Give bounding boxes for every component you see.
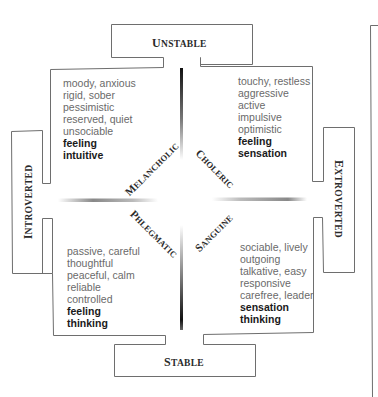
function: feeling xyxy=(63,137,136,149)
stable-rest: TABLE xyxy=(171,358,204,368)
trait: optimistic xyxy=(238,123,310,135)
function: feeling xyxy=(238,135,310,147)
trait: impulsive xyxy=(238,111,310,123)
axis-horizontal-left xyxy=(58,199,158,203)
trait: touchy, restless xyxy=(238,75,310,87)
axis-label-extroverted: EXTROVERTED xyxy=(331,155,349,243)
trait: reserved, quiet xyxy=(63,113,136,125)
axis-label-unstable: UNSTABLE xyxy=(152,33,207,51)
axis-vertical-bottom xyxy=(180,225,183,330)
trait: talkative, easy xyxy=(240,265,314,277)
function: feeling xyxy=(67,305,140,317)
axis-label-stable: STABLE xyxy=(164,352,204,370)
trait: thoughtful xyxy=(67,257,140,269)
trait: rigid, sober xyxy=(63,89,136,101)
trait: aggressive xyxy=(238,87,310,99)
trait: responsive xyxy=(240,277,314,289)
quadrant-top-left: moody, anxious rigid, sober pessimistic … xyxy=(63,77,136,161)
function: sensation xyxy=(240,301,314,313)
function: thinking xyxy=(240,313,314,325)
trait: reliable xyxy=(67,281,140,293)
function: thinking xyxy=(67,317,140,329)
axis-label-introverted: INTROVERTED xyxy=(18,160,36,244)
quadrant-bottom-left: passive, careful thoughtful peaceful, ca… xyxy=(67,245,140,329)
trait: unsociable xyxy=(63,125,136,137)
trait: passive, careful xyxy=(67,245,140,257)
trait: pessimistic xyxy=(63,101,136,113)
function: intuitive xyxy=(63,149,136,161)
unstable-rest: NSTABLE xyxy=(161,39,207,49)
introverted-rest: NTROVERTED xyxy=(24,165,34,235)
function: sensation xyxy=(238,147,310,159)
diagram-frame xyxy=(0,0,378,397)
trait: outgoing xyxy=(240,253,314,265)
quadrant-top-right: touchy, restless aggressive active impul… xyxy=(238,75,310,159)
trait: sociable, lively xyxy=(240,241,314,253)
axis-horizontal-right xyxy=(212,198,307,202)
trait: carefree, leader xyxy=(240,289,314,301)
trait: moody, anxious xyxy=(63,77,136,89)
trait: peaceful, calm xyxy=(67,269,140,281)
quadrant-bottom-right: sociable, lively outgoing talkative, eas… xyxy=(240,241,314,325)
trait: controlled xyxy=(67,293,140,305)
extroverted-rest: XTROVERTED xyxy=(333,168,343,238)
stable-initial: S xyxy=(164,355,171,369)
trait: active xyxy=(238,99,310,111)
unstable-initial: U xyxy=(152,36,161,50)
introverted-initial: I xyxy=(21,234,35,239)
